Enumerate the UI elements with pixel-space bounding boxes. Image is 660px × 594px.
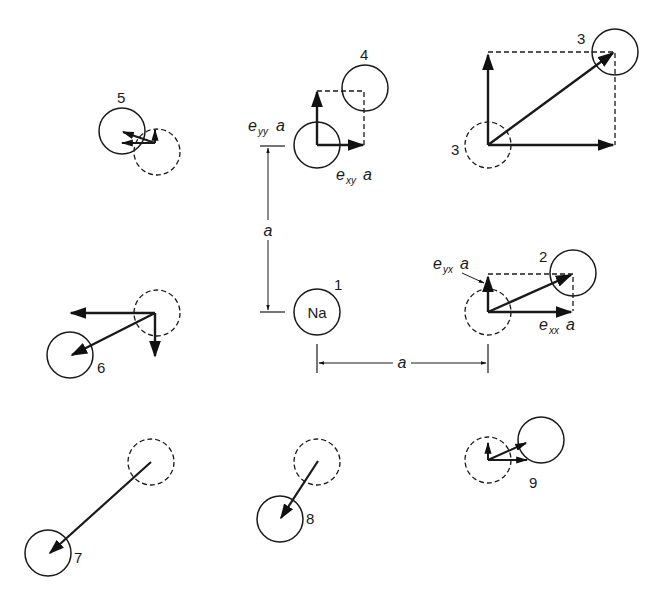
e-yx-label: e yx a [433, 255, 469, 275]
site-1-number: 1 [334, 276, 342, 293]
svg-text:e: e [433, 255, 442, 272]
site-8 [257, 439, 340, 542]
svg-text:xy: xy [345, 175, 357, 186]
site-5-equilibrium-circle [134, 129, 180, 175]
vertical-a-label: a [264, 222, 273, 239]
site-2-number: 2 [539, 248, 547, 265]
site-7-number: 7 [74, 549, 82, 566]
site-9 [465, 417, 564, 483]
svg-text:e: e [248, 117, 257, 134]
site-3 [465, 29, 638, 168]
site-3-displaced-number: 3 [577, 30, 585, 47]
svg-text:a: a [363, 166, 372, 183]
e-xx-label: e xx a [539, 316, 575, 336]
na-label: Na [307, 304, 327, 321]
site-8-displaced-circle [257, 496, 303, 542]
svg-text:xx: xx [548, 325, 560, 336]
site-5 [99, 108, 180, 175]
site-6-displaced-circle [47, 332, 93, 378]
svg-text:a: a [566, 316, 575, 333]
svg-text:e: e [539, 316, 548, 333]
site-9-displaced-circle [518, 417, 564, 463]
site-4-displaced-circle [342, 65, 388, 111]
e-yy-label: e yy a [248, 117, 285, 137]
site-4-number: 4 [360, 46, 368, 63]
e-yx-pointer [462, 273, 484, 283]
site-2 [462, 250, 596, 335]
site-3-displaced-circle [592, 29, 638, 75]
site-5-displaced-circle [99, 108, 145, 154]
svg-text:a: a [276, 117, 285, 134]
site-7 [25, 439, 174, 576]
site-7-displaced-circle [25, 530, 71, 576]
site-6-number: 6 [97, 359, 105, 376]
site-4 [294, 65, 388, 168]
site-9-number: 9 [529, 474, 537, 491]
svg-text:yx: yx [442, 264, 454, 275]
svg-text:e: e [336, 166, 345, 183]
strain-displacement-diagram: Na 1 4 3 3 2 5 6 7 8 9 a a e yy a e xy a… [0, 0, 660, 594]
e-xy-label: e xy a [336, 166, 372, 186]
site-5-number: 5 [117, 89, 125, 106]
site-6 [47, 290, 180, 378]
site-8-number: 8 [306, 510, 314, 527]
site-3-equilibrium-number: 3 [451, 141, 459, 158]
svg-text:yy: yy [257, 126, 269, 137]
svg-text:a: a [460, 255, 469, 272]
horizontal-a-label: a [398, 354, 407, 371]
